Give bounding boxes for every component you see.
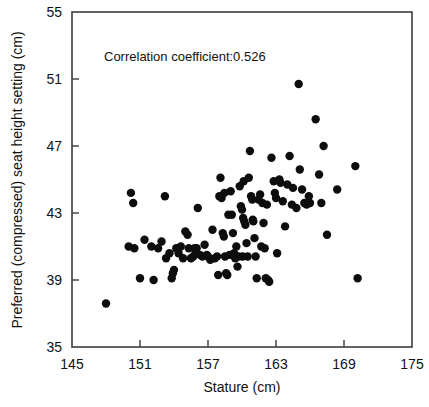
scatter-point xyxy=(311,115,319,123)
scatter-point xyxy=(288,200,296,208)
scatter-point xyxy=(254,195,262,203)
scatter-point xyxy=(240,177,248,185)
scatter-plot-figure: 145151157163169175 353943475155 Correlat… xyxy=(0,0,429,407)
scatter-point xyxy=(285,152,293,160)
scatter-point xyxy=(298,185,306,193)
scatter-point xyxy=(179,254,187,262)
scatter-point xyxy=(249,217,257,225)
y-tick-label: 35 xyxy=(46,339,62,355)
scatter-point xyxy=(257,242,265,250)
y-tick-label: 55 xyxy=(46,4,62,20)
scatter-point xyxy=(234,252,242,260)
x-tick-label: 145 xyxy=(60,356,84,372)
scatter-point xyxy=(263,200,271,208)
scatter-point xyxy=(200,241,208,249)
scatter-point xyxy=(183,231,191,239)
scatter-point xyxy=(224,210,232,218)
scatter-point xyxy=(281,222,289,230)
scatter-point xyxy=(170,266,178,274)
scatter-point xyxy=(149,276,157,284)
y-tick-label: 39 xyxy=(46,272,62,288)
scatter-point xyxy=(190,244,198,252)
scatter-point xyxy=(279,197,287,205)
y-tick-label: 43 xyxy=(46,205,62,221)
scatter-point xyxy=(216,174,224,182)
y-axis-title: Preferred (compressed) seat height setti… xyxy=(9,31,25,328)
scatter-point xyxy=(238,205,246,213)
scatter-point xyxy=(165,249,173,257)
scatter-point xyxy=(214,271,222,279)
scatter-point xyxy=(136,274,144,282)
scatter-point xyxy=(246,147,254,155)
scatter-point xyxy=(194,204,202,212)
scatter-point xyxy=(323,231,331,239)
scatter-point xyxy=(213,252,221,260)
scatter-point xyxy=(253,274,261,282)
scatter-point xyxy=(220,189,228,197)
scatter-point xyxy=(208,226,216,234)
scatter-point xyxy=(177,242,185,250)
scatter-point xyxy=(241,221,249,229)
scatter-point xyxy=(294,80,302,88)
chart-canvas: 145151157163169175 353943475155 Correlat… xyxy=(0,0,429,407)
scatter-point xyxy=(204,252,212,260)
scatter-point xyxy=(319,142,327,150)
scatter-point xyxy=(157,237,165,245)
scatter-point xyxy=(289,184,297,192)
scatter-point xyxy=(242,239,250,247)
scatter-point xyxy=(232,242,240,250)
y-tick-label: 51 xyxy=(46,71,62,87)
x-tick-label: 163 xyxy=(264,356,288,372)
scatter-point xyxy=(273,249,281,257)
scatter-point xyxy=(220,232,228,240)
scatter-point xyxy=(161,192,169,200)
scatter-point xyxy=(130,244,138,252)
scatter-point xyxy=(315,170,323,178)
scatter-point xyxy=(265,277,273,285)
scatter-point xyxy=(102,299,110,307)
scatter-point xyxy=(305,192,313,200)
scatter-point xyxy=(251,252,259,260)
scatter-point xyxy=(233,262,241,270)
correlation-annotation: Correlation coefficient:0.526 xyxy=(104,49,266,64)
scatter-point xyxy=(259,219,267,227)
scatter-point xyxy=(129,199,137,207)
scatter-point xyxy=(229,229,237,237)
scatter-point xyxy=(353,274,361,282)
scatter-point xyxy=(275,175,283,183)
x-tick-label: 175 xyxy=(400,356,424,372)
scatter-point xyxy=(296,165,304,173)
scatter-point xyxy=(223,271,231,279)
y-tick-label: 47 xyxy=(46,138,62,154)
scatter-point xyxy=(317,199,325,207)
x-tick-label: 151 xyxy=(128,356,152,372)
x-tick-label: 157 xyxy=(196,356,220,372)
scatter-point xyxy=(333,185,341,193)
x-axis-title: Stature (cm) xyxy=(203,379,280,395)
scatter-point xyxy=(351,162,359,170)
scatter-point xyxy=(267,154,275,162)
x-tick-label: 169 xyxy=(332,356,356,372)
scatter-point xyxy=(127,189,135,197)
scatter-point xyxy=(140,236,148,244)
scatter-point xyxy=(250,234,258,242)
